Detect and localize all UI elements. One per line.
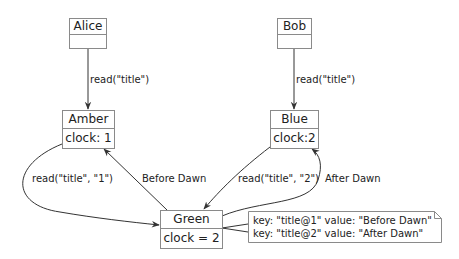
edge-label-alice-amber: read("title") [90,74,149,85]
edge-label-green-blue: After Dawn [325,173,381,184]
node-title: Blue [281,112,308,126]
node-title: Alice [74,19,103,33]
note-green: key: "title@1" value: "Before Dawn" key:… [249,212,442,243]
edge-amber-to-green: read("title", "1") [23,144,159,225]
node-body: clock = 2 [163,231,219,245]
edge-bob-to-blue: read("title") [294,48,355,109]
edge-alice-to-amber: read("title") [88,48,149,109]
edge-label-blue-green: read("title", "2") [238,173,319,184]
edge-label-green-amber: Before Dawn [142,173,206,184]
node-title: Bob [283,19,306,33]
edge-green-to-amber: Before Dawn [104,149,206,210]
node-bob[interactable]: Bob [278,19,312,49]
node-title: Amber [69,112,109,126]
node-body: clock:2 [273,131,316,145]
node-alice[interactable]: Alice [70,19,107,49]
edge-label-bob-blue: read("title") [296,74,355,85]
node-title: Green [173,212,209,226]
edge-label-amber-green: read("title", "1") [32,173,113,184]
note-connector [222,224,248,232]
edge-blue-to-green: read("title", "2") [204,147,319,209]
node-blue[interactable]: Blue clock:2 [271,111,319,149]
node-amber[interactable]: Amber clock: 1 [63,111,115,149]
node-body: clock: 1 [65,131,111,145]
note-line-1: key: "title@1" value: "Before Dawn" [253,215,432,226]
node-green[interactable]: Green clock = 2 [161,211,223,249]
note-line-2: key: "title@2" value: "After Dawn" [253,228,423,239]
diagram-canvas: read("title") read("title") read("title"… [0,0,459,259]
